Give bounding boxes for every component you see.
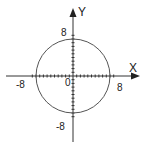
x-pos-tick-label: 8 bbox=[117, 82, 123, 93]
origin-label: 0 bbox=[65, 77, 71, 88]
y-neg-tick-label: -8 bbox=[56, 121, 65, 132]
y-axis-arrow-icon bbox=[70, 8, 77, 17]
y-axis-label: Y bbox=[78, 5, 86, 19]
x-axis-label: X bbox=[129, 61, 137, 75]
coordinate-plane: Y X 0 -8 8 8 -8 bbox=[0, 0, 147, 148]
y-pos-tick-label: 8 bbox=[61, 27, 67, 38]
x-neg-tick-label: -8 bbox=[16, 79, 25, 90]
